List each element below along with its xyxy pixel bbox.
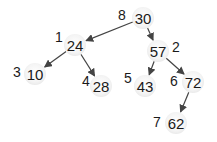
edge-arrow — [45, 51, 66, 66]
edge-arrow — [148, 28, 153, 40]
node-order-label: 3 — [13, 65, 21, 79]
edge-arrow — [166, 58, 184, 74]
node-order-label: 4 — [82, 74, 90, 88]
tree-node: 28 — [90, 75, 112, 97]
node-order-label: 7 — [153, 115, 161, 129]
node-order-label: 1 — [55, 30, 63, 44]
tree-node: 24 — [64, 34, 86, 56]
node-order-label: 8 — [118, 8, 126, 22]
tree-node: 62 — [165, 112, 187, 134]
node-order-label: 2 — [172, 40, 180, 54]
tree-node: 30 — [132, 7, 154, 29]
edge-arrow — [181, 92, 189, 112]
tree-node: 57 — [147, 40, 169, 62]
tree-diagram: 308241572103284435726627 — [0, 0, 217, 142]
node-order-label: 6 — [170, 74, 178, 88]
tree-node: 72 — [182, 71, 204, 93]
node-order-label: 5 — [124, 71, 132, 85]
tree-node: 43 — [134, 75, 156, 97]
tree-node: 10 — [24, 63, 46, 85]
edge-arrow — [149, 61, 154, 74]
edge-arrow — [86, 22, 133, 41]
